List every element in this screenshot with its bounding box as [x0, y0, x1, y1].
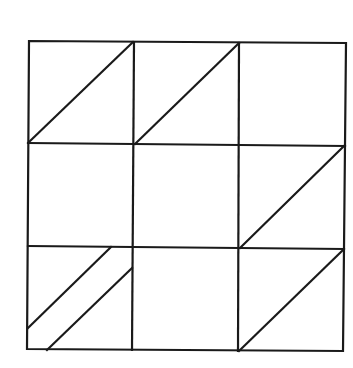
- diagonal-line-r3c3: [239, 250, 343, 351]
- vertical-grid-line: [238, 43, 239, 351]
- diagonal-line-r2c3: [240, 146, 344, 248]
- diagonal-line-r1c1: [29, 42, 133, 142]
- grid-diagram: [0, 0, 353, 368]
- diagonal-line-r1c2: [135, 43, 239, 144]
- diagram-lines: [27, 41, 346, 351]
- outer-square: [27, 41, 346, 351]
- horizontal-grid-line: [28, 143, 345, 146]
- horizontal-grid-line: [28, 246, 344, 249]
- vertical-grid-line: [132, 42, 134, 350]
- diagonal-line-r3c1-b: [47, 268, 132, 350]
- diagonal-line-r3c1-a: [28, 247, 111, 328]
